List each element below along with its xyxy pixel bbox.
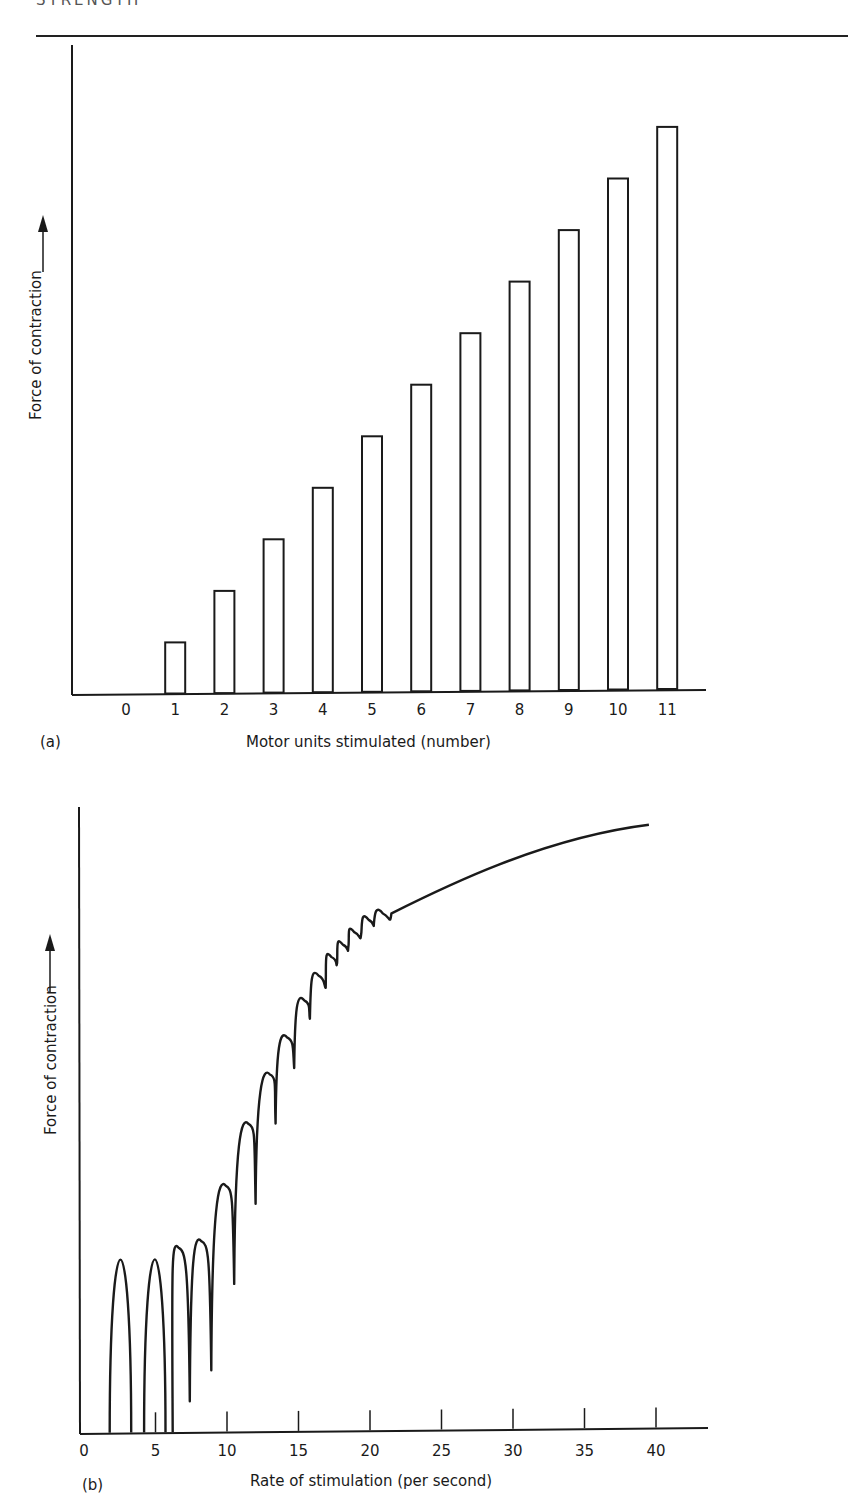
figure-svg: 01234567891011 Force of contraction (a) … <box>0 0 848 1496</box>
chart-a-bar-chart: 01234567891011 Force of contraction (a) … <box>27 45 706 751</box>
bar-10 <box>608 179 628 690</box>
bar-4 <box>313 488 333 692</box>
x-tick-label: 10 <box>608 701 627 719</box>
x-tick-label: 8 <box>515 701 525 719</box>
x-tick-label: 30 <box>503 1442 522 1460</box>
x-tick-label: 5 <box>151 1442 161 1460</box>
bar-2 <box>214 591 234 693</box>
x-tick-label: 3 <box>269 701 279 719</box>
chart-b-y-axis <box>79 807 80 1434</box>
x-tick-label: 0 <box>79 1442 89 1460</box>
bar-6 <box>411 385 431 692</box>
chart-a-y-axis-label: Force of contraction <box>27 270 45 420</box>
x-tick-label: 7 <box>466 701 476 719</box>
bar-1 <box>165 642 185 693</box>
x-tick-label: 6 <box>416 701 426 719</box>
x-tick-label: 15 <box>289 1442 308 1460</box>
chart-b-force-curve <box>110 825 649 1433</box>
x-tick-label: 25 <box>432 1442 451 1460</box>
x-tick-label: 20 <box>360 1442 379 1460</box>
x-tick-label: 40 <box>646 1442 665 1460</box>
x-tick-label: 2 <box>220 701 230 719</box>
x-tick-label: 0 <box>121 701 131 719</box>
bar-3 <box>264 539 284 692</box>
up-arrow-icon <box>38 215 48 272</box>
x-tick-label: 10 <box>217 1442 236 1460</box>
up-arrow-icon <box>45 934 55 992</box>
chart-a-x-tick-labels: 01234567891011 <box>121 701 677 719</box>
chart-b-panel-label: (b) <box>82 1476 103 1494</box>
x-tick-label: 9 <box>564 701 574 719</box>
x-tick-label: 11 <box>658 701 677 719</box>
bar-5 <box>362 436 382 692</box>
x-tick-label: 35 <box>575 1442 594 1460</box>
x-tick-label: 1 <box>170 701 180 719</box>
bar-9 <box>559 230 579 690</box>
chart-a-panel-label: (a) <box>40 733 61 751</box>
bar-11 <box>657 127 677 689</box>
chart-b-x-axis-label: Rate of stimulation (per second) <box>250 1472 492 1490</box>
chart-a-x-axis-label: Motor units stimulated (number) <box>246 733 491 751</box>
chart-b-x-axis <box>80 1428 708 1434</box>
bar-8 <box>510 282 530 691</box>
x-tick-label: 5 <box>367 701 377 719</box>
chart-b-y-axis-label: Force of contraction <box>42 985 60 1135</box>
chart-a-bars <box>165 127 677 694</box>
x-tick-label: 4 <box>318 701 328 719</box>
chart-b-line-chart: 0510152025303540 Force of contraction (b… <box>42 807 708 1494</box>
bar-7 <box>460 333 480 691</box>
